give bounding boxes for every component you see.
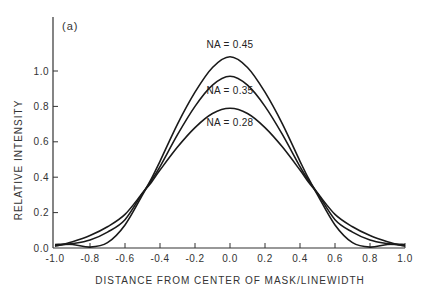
x-tick-label: -1.0 (45, 253, 64, 264)
y-axis-title: RELATIVE INTENSITY (13, 100, 24, 221)
panel-label: (a) (62, 20, 78, 32)
x-tick-label: 0.0 (222, 253, 237, 264)
curve-035 (55, 76, 405, 245)
y-tick-label: 0.2 (34, 207, 49, 218)
x-tick-label: -0.4 (150, 253, 169, 264)
x-tick-label: 0.2 (257, 253, 272, 264)
axes: -1.0-0.8-0.6-0.4-0.20.00.20.40.60.81.00.… (34, 17, 413, 264)
y-tick-label: 1.0 (34, 66, 49, 77)
x-tick-label: -0.6 (115, 253, 134, 264)
x-tick-label: 0.4 (292, 253, 307, 264)
x-tick-label: -0.2 (185, 253, 204, 264)
curve-label: NA = 0.28 (207, 117, 254, 128)
x-tick-label: 0.6 (327, 253, 342, 264)
x-axis-title: DISTANCE FROM CENTER OF MASK/LINEWIDTH (95, 275, 365, 286)
curve-label: NA = 0.45 (207, 39, 254, 50)
y-tick-label: 0.6 (34, 136, 49, 147)
x-tick-label: 0.8 (362, 253, 377, 264)
x-tick-label: 1.0 (397, 253, 412, 264)
intensity-profile-chart: -1.0-0.8-0.6-0.4-0.20.00.20.40.60.81.00.… (0, 0, 429, 299)
y-tick-label: 0.8 (34, 101, 49, 112)
y-tick-label: 0.4 (34, 172, 49, 183)
curve-label: NA = 0.35 (207, 85, 254, 96)
curve-028 (55, 108, 405, 246)
y-tick-label: 0.0 (34, 243, 49, 254)
x-tick-label: -0.8 (80, 253, 99, 264)
